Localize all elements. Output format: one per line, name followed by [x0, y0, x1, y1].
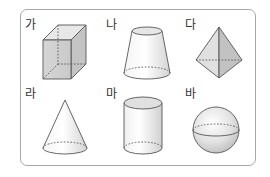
sphere-icon — [193, 107, 239, 153]
truncated-cone-icon — [124, 27, 170, 79]
triangular-bipyramid-icon — [196, 27, 242, 78]
solid-figures-diagram: 가 나 다 라 마 바 — [0, 0, 270, 177]
cone-icon — [43, 100, 87, 154]
rectangular-prism-icon — [43, 25, 86, 79]
shapes-canvas — [0, 0, 270, 177]
cylinder-icon — [124, 97, 162, 154]
